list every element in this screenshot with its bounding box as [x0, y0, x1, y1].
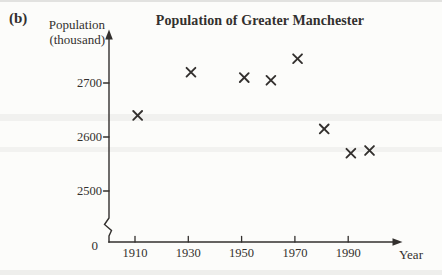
data-points	[133, 54, 374, 157]
data-point-marker	[320, 125, 329, 134]
data-point-marker	[346, 149, 355, 158]
x-tick-label: 1930	[166, 245, 210, 261]
x-tick-label: 1990	[326, 245, 370, 261]
data-point-marker	[365, 146, 374, 155]
axis-ticks	[104, 83, 349, 242]
y-tick-label: 2600	[58, 129, 102, 145]
y-axis-arrowhead-icon	[105, 30, 113, 40]
y-axis-line	[105, 37, 112, 243]
data-point-marker	[293, 54, 302, 63]
y-tick-label: 2500	[58, 183, 102, 199]
x-axis-arrowhead-icon	[393, 238, 403, 246]
chart-figure: (b) Population of Greater Manchester Pop…	[0, 0, 442, 275]
x-tick-label: 1910	[113, 245, 157, 261]
y-tick-label: 2700	[58, 75, 102, 91]
data-point-marker	[267, 76, 276, 85]
data-point-marker	[240, 73, 249, 82]
x-tick-label: 1970	[273, 245, 317, 261]
data-point-marker	[187, 68, 196, 77]
x-tick-label: 1950	[220, 245, 264, 261]
data-point-marker	[133, 111, 142, 120]
